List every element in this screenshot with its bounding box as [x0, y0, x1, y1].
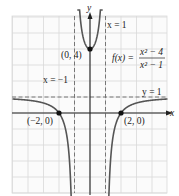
data-point: [118, 110, 123, 115]
data-point: [56, 110, 61, 115]
asymptote-label-y1: y = 1: [142, 87, 162, 97]
function-numerator: x² − 4: [139, 47, 163, 57]
asymptote-label-xm1: x = −1: [43, 75, 68, 85]
point-label-m2-0: (−2, 0): [27, 116, 53, 127]
function-denominator: x² − 1: [139, 60, 163, 70]
point-label-2-0: (2, 0): [124, 116, 145, 127]
chart: y x x = 1 x = −1 y = 1 (0, 4) (−2, 0) (2…: [0, 0, 179, 196]
x-axis-label: x: [169, 108, 175, 118]
function-name-label: f(x) =: [112, 53, 134, 64]
y-axis-arrow: [88, 12, 93, 19]
asymptote-label-x1: x = 1: [107, 20, 127, 30]
point-label-0-4: (0, 4): [61, 50, 82, 61]
data-point: [87, 46, 92, 51]
y-axis-label: y: [86, 3, 92, 13]
